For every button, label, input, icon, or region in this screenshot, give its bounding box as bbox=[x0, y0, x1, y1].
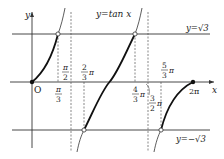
tick-2-3-num: 2 bbox=[82, 63, 87, 72]
point-4pi-over-3-open bbox=[133, 32, 137, 36]
tan-branch-3-lower bbox=[154, 130, 161, 152]
tick-4-3-num: 4 bbox=[133, 85, 138, 94]
tick-2pi: 2π bbox=[189, 87, 199, 96]
point-origin bbox=[30, 80, 34, 84]
function-label: y=tan x bbox=[95, 9, 131, 19]
point-pi-over-3-open bbox=[56, 32, 60, 36]
tick-5-3-den: 3 bbox=[162, 71, 167, 80]
point-2pi bbox=[191, 80, 195, 84]
origin-label: O bbox=[34, 85, 41, 95]
tick-pi-over-3-den: 3 bbox=[56, 95, 61, 104]
tick-2-3-pi: π bbox=[88, 68, 95, 77]
y-axis-arrow-icon bbox=[30, 12, 34, 17]
tick-3-2-num: 3 bbox=[150, 94, 155, 103]
tick-3-2-pi: π bbox=[156, 99, 163, 108]
neg-sqrt3-label: y=−√3 bbox=[175, 134, 206, 144]
tangent-graph: y x O y=tan x y=√3 y=−√3 π 3 π 2 2 3 π 4… bbox=[0, 0, 224, 159]
tick-5-3-pi: π bbox=[168, 66, 175, 75]
point-2pi-over-3-open bbox=[82, 128, 86, 132]
tan-branch-2-upper bbox=[135, 8, 142, 34]
y-axis-label: y bbox=[24, 10, 31, 20]
tick-3-2-den: 2 bbox=[150, 104, 155, 113]
tick-pi-over-2-num: π bbox=[62, 63, 69, 72]
tick-4-3-den: 3 bbox=[133, 95, 138, 104]
point-5pi-over-3-open bbox=[159, 128, 163, 132]
sqrt3-label: y=√3 bbox=[185, 23, 209, 33]
tick-5-3-num: 5 bbox=[162, 61, 167, 70]
x-axis-label: x bbox=[212, 85, 217, 95]
tan-branch-2-lower bbox=[77, 130, 84, 152]
tick-pi-over-2-den: 2 bbox=[63, 73, 68, 82]
x-axis-arrow-icon bbox=[209, 80, 214, 84]
tan-segment-0-to-pi-over-3 bbox=[32, 34, 58, 82]
tick-2-3-den: 3 bbox=[82, 73, 87, 82]
tick-pi-over-3-num: π bbox=[55, 85, 62, 94]
tick-4-3-pi: π bbox=[139, 90, 146, 99]
tan-branch-1-upper bbox=[58, 8, 65, 34]
